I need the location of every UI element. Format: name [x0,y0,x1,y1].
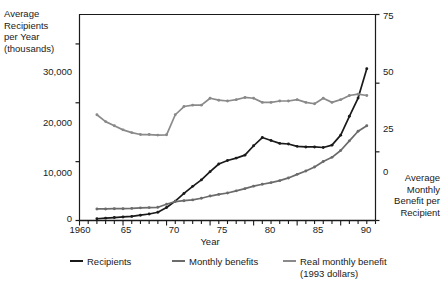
legend-label-monthly-benefits: Monthly benefits [189,256,258,267]
legend-item-monthly-benefits: Monthly benefits [172,256,258,268]
chart-plot-area [0,0,444,289]
chart-figure: Average Recipients per Year (thousands) … [0,0,444,289]
legend-swatch-real-monthly-benefit [283,260,296,262]
legend-label-real-monthly-benefit: Real monthly benefit [300,256,387,267]
series-recipients [95,67,368,220]
legend-item-real-monthly-benefit: Real monthly benefit (1993 dollars) [283,256,387,280]
legend-item-recipients: Recipients [70,256,131,268]
legend-sublabel-real-monthly-benefit: (1993 dollars) [300,268,387,280]
legend-swatch-recipients [70,260,83,262]
legend-label-recipients: Recipients [87,256,131,267]
series-real-monthly-benefit-1993-dollars [95,93,368,137]
series-monthly-benefits [95,124,368,210]
legend-swatch-monthly-benefits [172,260,185,262]
chart-legend: Recipients Monthly benefits Real monthly… [0,252,444,289]
